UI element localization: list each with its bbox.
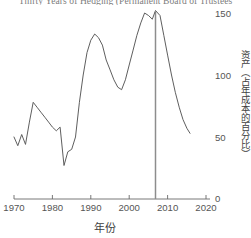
chart-figure: Thirty Years of Hedging (Permanent Board…: [0, 0, 251, 238]
y-tick-label: 150: [215, 8, 231, 19]
x-tick-labels: 1970 1980 1990 2000 2010 2020: [3, 202, 216, 213]
x-axis-label: 年份: [0, 219, 210, 235]
y-tick-label: 50: [215, 132, 226, 143]
line-chart-plot: 1970 1980 1990 2000 2010 2020 0 50 100 1…: [0, 0, 251, 238]
x-tick-label: 2020: [195, 202, 216, 213]
y-tick-label: 0: [215, 193, 220, 204]
y-tick-label: 100: [215, 70, 231, 81]
data-series-line: [14, 11, 190, 166]
x-tick-label: 2000: [119, 202, 140, 213]
x-tick-label: 1970: [3, 202, 24, 213]
x-tick-label: 2010: [157, 202, 178, 213]
x-tick-label: 1980: [42, 202, 63, 213]
y-axis-label: 资产（占年成本的百分比）: [235, 50, 250, 158]
x-tick-label: 1990: [80, 202, 101, 213]
y-tick-labels: 0 50 100 150: [215, 8, 231, 205]
x-axis: [14, 195, 206, 199]
